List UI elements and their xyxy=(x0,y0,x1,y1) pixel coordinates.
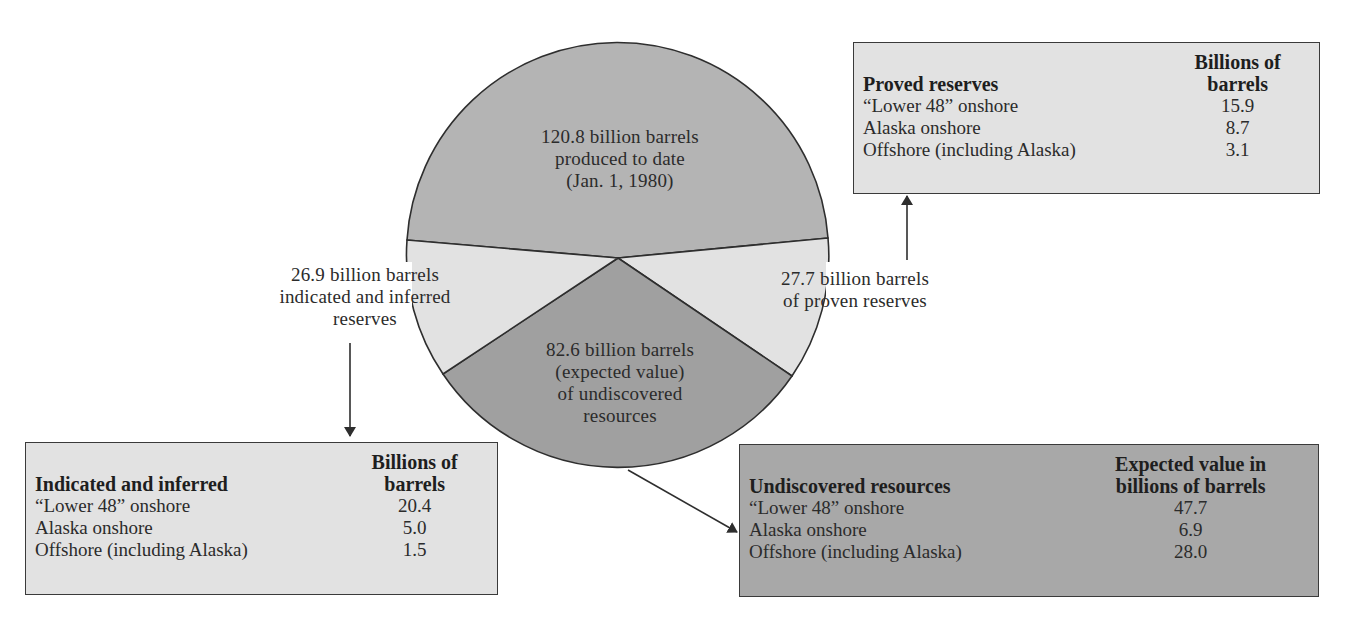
table-row: Offshore (including Alaska) 3.1 xyxy=(863,139,1309,161)
table-row: Alaska onshore 8.7 xyxy=(863,117,1309,139)
row-label: “Lower 48” onshore xyxy=(863,95,1166,117)
row-value: 28.0 xyxy=(1073,541,1308,563)
row-value: 8.7 xyxy=(1166,117,1309,139)
box-title: Indicated and inferred xyxy=(35,451,342,495)
column-header-line2: barrels xyxy=(342,473,487,495)
table-header-row: Indicated and inferred Billions of barre… xyxy=(35,451,487,495)
row-label: “Lower 48” onshore xyxy=(749,497,1073,519)
table-row: Offshore (including Alaska) 28.0 xyxy=(749,541,1308,563)
label-produced-line2: produced to date xyxy=(480,148,760,170)
label-indicated: 26.9 billion barrels indicated and infer… xyxy=(245,264,485,330)
column-header-line2: barrels xyxy=(1166,73,1309,95)
label-indicated-line3: reserves xyxy=(245,308,485,330)
arrow-to-undiscovered-box xyxy=(628,470,737,532)
label-indicated-line2: indicated and inferred xyxy=(245,286,485,308)
label-undiscovered-line3: of undiscovered xyxy=(490,383,750,405)
column-header: Billions of barrels xyxy=(342,451,487,495)
label-produced-line3: (Jan. 1, 1980) xyxy=(480,170,760,192)
label-undiscovered-line2: (expected value) xyxy=(490,361,750,383)
row-label: Offshore (including Alaska) xyxy=(35,539,342,561)
column-header: Billions of barrels xyxy=(1166,51,1309,95)
column-header-line2: billions of barrels xyxy=(1073,475,1308,497)
row-value: 47.7 xyxy=(1073,497,1308,519)
undiscovered-resources-table: Undiscovered resources Expected value in… xyxy=(749,453,1308,563)
label-produced: 120.8 billion barrels produced to date (… xyxy=(480,126,760,192)
box-title: Proved reserves xyxy=(863,51,1166,95)
proved-reserves-table: Proved reserves Billions of barrels “Low… xyxy=(863,51,1309,161)
row-label: “Lower 48” onshore xyxy=(35,495,342,517)
row-value: 3.1 xyxy=(1166,139,1309,161)
label-indicated-line1: 26.9 billion barrels xyxy=(245,264,485,286)
box-title: Undiscovered resources xyxy=(749,453,1073,497)
table-row: “Lower 48” onshore 47.7 xyxy=(749,497,1308,519)
label-produced-line1: 120.8 billion barrels xyxy=(480,126,760,148)
table-row: Alaska onshore 5.0 xyxy=(35,517,487,539)
table-row: Offshore (including Alaska) 1.5 xyxy=(35,539,487,561)
row-label: Alaska onshore xyxy=(863,117,1166,139)
row-label: Alaska onshore xyxy=(749,519,1073,541)
indicated-inferred-table: Indicated and inferred Billions of barre… xyxy=(35,451,487,561)
column-header-line1: Billions of xyxy=(342,451,487,473)
label-undiscovered-line1: 82.6 billion barrels xyxy=(490,339,750,361)
row-label: Offshore (including Alaska) xyxy=(749,541,1073,563)
label-proven: 27.7 billion barrels of proven reserves xyxy=(740,268,970,312)
proved-reserves-box: Proved reserves Billions of barrels “Low… xyxy=(853,42,1320,194)
label-undiscovered: 82.6 billion barrels (expected value) of… xyxy=(490,339,750,427)
row-value: 20.4 xyxy=(342,495,487,517)
row-value: 1.5 xyxy=(342,539,487,561)
column-header-line1: Expected value in xyxy=(1073,453,1308,475)
label-proven-line2: of proven reserves xyxy=(740,290,970,312)
label-proven-line1: 27.7 billion barrels xyxy=(740,268,970,290)
row-value: 5.0 xyxy=(342,517,487,539)
indicated-inferred-box: Indicated and inferred Billions of barre… xyxy=(25,442,498,595)
table-header-row: Proved reserves Billions of barrels xyxy=(863,51,1309,95)
row-value: 6.9 xyxy=(1073,519,1308,541)
table-row: Alaska onshore 6.9 xyxy=(749,519,1308,541)
label-undiscovered-line4: resources xyxy=(490,405,750,427)
column-header: Expected value in billions of barrels xyxy=(1073,453,1308,497)
row-label: Offshore (including Alaska) xyxy=(863,139,1166,161)
row-label: Alaska onshore xyxy=(35,517,342,539)
table-row: “Lower 48” onshore 15.9 xyxy=(863,95,1309,117)
undiscovered-resources-box: Undiscovered resources Expected value in… xyxy=(739,444,1319,597)
column-header-line1: Billions of xyxy=(1166,51,1309,73)
table-header-row: Undiscovered resources Expected value in… xyxy=(749,453,1308,497)
table-row: “Lower 48” onshore 20.4 xyxy=(35,495,487,517)
row-value: 15.9 xyxy=(1166,95,1309,117)
